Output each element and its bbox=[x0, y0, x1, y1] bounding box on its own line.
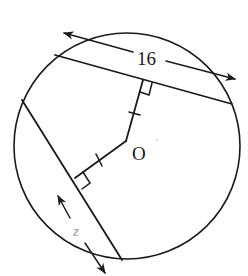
left-chord bbox=[22, 100, 122, 260]
circle bbox=[14, 33, 240, 259]
center-point-dot bbox=[156, 139, 158, 141]
top-chord-dimension-right bbox=[166, 61, 235, 79]
left-chord-length-label: z bbox=[72, 223, 79, 239]
circle-chords-diagram: 16 z O bbox=[0, 0, 248, 276]
left-chord-dimension-upper bbox=[58, 196, 70, 218]
left-chord-dimension-lower bbox=[85, 243, 105, 273]
right-angle-marker-left bbox=[82, 172, 90, 189]
perpendicular-to-top-chord bbox=[126, 80, 143, 141]
top-chord-length-label: 16 bbox=[137, 48, 156, 69]
center-label: O bbox=[132, 143, 146, 164]
